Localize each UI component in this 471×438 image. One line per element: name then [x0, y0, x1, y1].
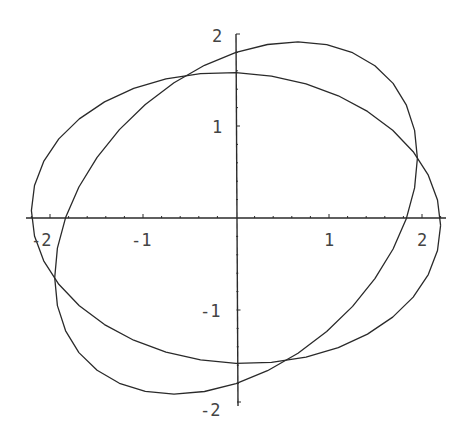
x-axis: [26, 214, 446, 218]
x-tick-label-1: 1: [324, 230, 334, 250]
y-axis-line: [236, 34, 238, 406]
x-tick-label-2: 2: [417, 230, 427, 250]
parametric-plot: -2 -1 1 2 2 1 -1 -2: [0, 0, 471, 438]
y-tick-label-2: 2: [212, 26, 222, 46]
y-tick-label-neg1: -1: [200, 301, 220, 321]
y-tick-label-neg2: -2: [200, 400, 220, 420]
y-axis: [236, 34, 241, 406]
y-tick-label-1: 1: [212, 117, 222, 137]
x-tick-label-neg2: -2: [31, 230, 51, 250]
x-tick-label-neg1: -1: [131, 230, 151, 250]
